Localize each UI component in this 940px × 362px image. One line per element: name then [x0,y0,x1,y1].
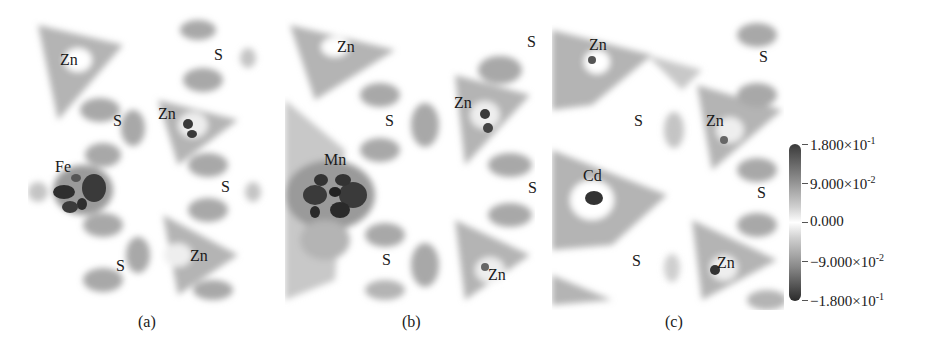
panel-c [552,0,784,310]
atom-label-s: S [382,252,391,268]
colorbar-tick [802,183,808,184]
colorbar-tick-label: −9.000×10-2 [810,252,884,271]
caption-c: (c) [665,313,683,331]
colorbar-tick-label: −1.800×10-1 [810,291,884,310]
atom-label-cd: Cd [583,168,602,184]
colorbar-tick [802,222,808,223]
atom-label-s: S [221,179,230,195]
colorbar-tick [802,300,808,301]
colorbar-tick [802,261,808,262]
atom-label-fe: Fe [55,159,71,175]
atom-label-s: S [527,34,536,50]
density-map-b [285,0,535,310]
atom-label-zn: Zn [60,52,78,68]
panel-b [285,0,535,310]
caption-b: (b) [402,313,421,331]
atom-label-zn: Zn [488,267,506,283]
atom-label-s: S [632,253,641,269]
atom-label-s: S [113,113,122,129]
colorbar-tick [802,144,808,145]
atom-label-s: S [528,180,537,196]
atom-label-s: S [759,49,768,65]
atom-label-s: S [385,113,394,129]
atom-label-zn: Zn [190,248,208,264]
atom-label-zn: Zn [337,39,355,55]
density-map-a [28,0,268,310]
atom-label-s: S [757,185,766,201]
atom-label-s: S [214,47,223,63]
colorbar-tick-label: 9.000×10-2 [810,174,876,193]
atom-label-mn: Mn [324,152,346,168]
atom-label-zn: Zn [717,255,735,271]
caption-a: (a) [138,313,156,331]
colorbar [789,144,801,301]
atom-label-zn: Zn [158,106,176,122]
density-map-c [552,0,784,310]
atom-label-s: S [634,113,643,129]
atom-label-zn: Zn [706,113,724,129]
colorbar-tick-label: 1.800×10-1 [810,135,876,154]
atom-label-zn: Zn [454,95,472,111]
panel-a [28,0,268,310]
colorbar-tick-label: 0.000 [810,213,844,230]
atom-label-s: S [116,258,125,274]
atom-label-zn: Zn [589,37,607,53]
